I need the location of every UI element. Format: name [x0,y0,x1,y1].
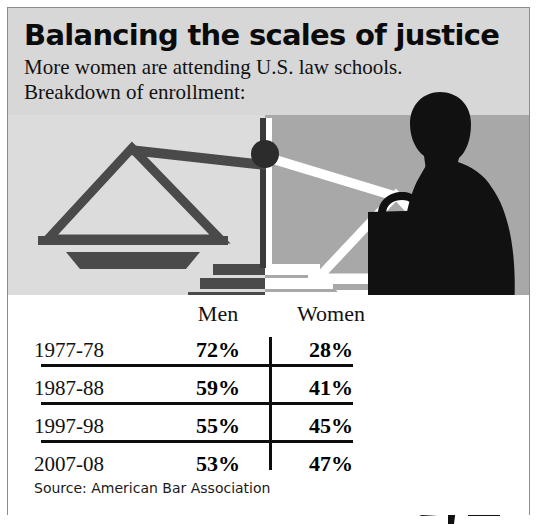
table-column-header-women: Women [276,301,386,327]
page-title: Balancing the scales of justice [24,19,494,51]
table-cell-year: 1997-98 [34,411,104,441]
subtitle-line-1: More women are attending U.S. law school… [24,55,494,80]
table-cell-men: 53% [168,449,268,479]
table-cell-year: 1977-78 [34,335,104,365]
table-cell-year: 2007-08 [34,449,104,479]
scale-pan-left [38,148,228,269]
table-cell-men: 72% [168,335,268,365]
table-rule [41,440,353,443]
source-attribution: Source: American Bar Association [34,480,270,496]
table-rule [41,364,353,367]
table-cell-women: 47% [276,449,386,479]
table-cell-men: 59% [168,373,268,403]
infographic-root: Balancing the scales of justice More wom… [0,0,538,524]
table-cell-women: 28% [276,335,386,365]
table-rule [41,402,353,405]
table-column-header-men: Men [168,301,268,327]
table-cell-men: 55% [168,411,268,441]
table-cell-women: 41% [276,373,386,403]
scale-fulcrum [251,140,279,168]
enrollment-table: Men Women 1977-78 72% 28% 1987-88 59% 41… [8,295,529,515]
table-cell-women: 45% [276,411,386,441]
table-cell-year: 1987-88 [34,373,104,403]
